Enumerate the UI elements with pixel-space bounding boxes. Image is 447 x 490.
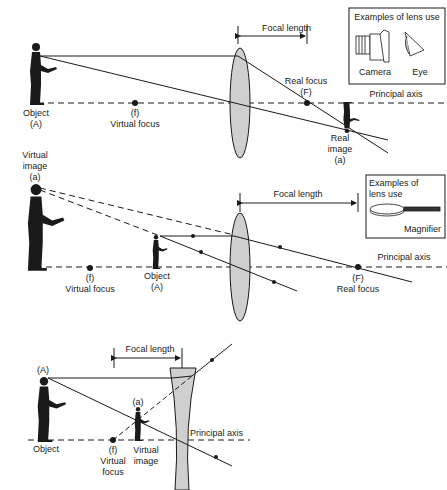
object-sub-2: (A): [151, 282, 163, 292]
object-sub-3: (A): [37, 365, 49, 375]
object-label-3: Object: [33, 444, 60, 454]
virtual-image-label-3: Virtual: [133, 445, 158, 455]
magnifier-label: Magnifier: [404, 224, 441, 234]
object-person-icon: [30, 43, 57, 105]
principal-axis-label-2: Principal axis: [377, 252, 431, 262]
real-focus-label-2: Real focus: [337, 284, 380, 294]
examples-box-title-2: Examples of: [369, 178, 419, 188]
virtual-focus-sym-2: (f): [86, 273, 95, 283]
virtual-focus-sym-3: (f): [109, 445, 118, 455]
virtual-focus-sym: (f): [131, 108, 140, 118]
real-image-label: Real: [331, 133, 350, 143]
virtual-image-label-3b: image: [134, 456, 159, 466]
virtual-image-sub: (a): [30, 172, 41, 182]
principal-axis-label-3: Principal axis: [190, 428, 244, 438]
real-focus-label: Real focus: [285, 76, 328, 86]
object-person-icon-3: [38, 377, 66, 442]
virtual-image-label-2: image: [23, 161, 48, 171]
real-focus-dot: [304, 100, 310, 106]
virtual-focus-dot-3: [110, 437, 116, 443]
convex-lens-2: [230, 213, 250, 321]
focal-length-label: Focal length: [262, 23, 311, 33]
examples-box-magnifier: Examples of lens use Magnifier: [366, 175, 445, 238]
object-label: Object: [23, 108, 50, 118]
focal-length-label-2: Focal length: [273, 189, 322, 199]
virtual-focus-dot-2: [87, 265, 93, 271]
real-image-sub: (a): [335, 155, 346, 165]
real-image-label-2: image: [328, 144, 353, 154]
object-person-icon-2: [153, 235, 168, 269]
virtual-focus-label-3b: focus: [102, 467, 124, 477]
examples-box-title-2b: lens use: [369, 189, 403, 199]
camera-label: Camera: [359, 67, 391, 77]
virtual-focus-label: Virtual focus: [110, 119, 160, 129]
real-focus-dot-2: [355, 264, 361, 270]
object-label-2: Object: [144, 271, 171, 281]
examples-box-camera-eye: Examples of lens use Camera Eye: [349, 8, 445, 84]
virtual-focus-label-2: Virtual focus: [65, 284, 115, 294]
eye-label: Eye: [412, 67, 428, 77]
principal-axis-label: Principal axis: [369, 89, 423, 99]
real-focus-sym: (F): [300, 87, 312, 97]
virtual-image-label: Virtual: [22, 150, 47, 160]
examples-box-title: Examples of lens use: [354, 12, 440, 22]
virtual-focus-label-3: Virtual: [100, 456, 125, 466]
real-focus-sym-2: (F): [352, 273, 364, 283]
real-image-inverted-icon: [343, 102, 359, 133]
lens-diagram-figure: Focal length Object (A) (f) Virtual focu…: [0, 0, 447, 490]
image-sub-3: (a): [133, 397, 144, 407]
focal-length-label-3: Focal length: [125, 344, 174, 354]
virtual-focus-dot: [132, 100, 138, 106]
object-sub: (A): [30, 119, 42, 129]
